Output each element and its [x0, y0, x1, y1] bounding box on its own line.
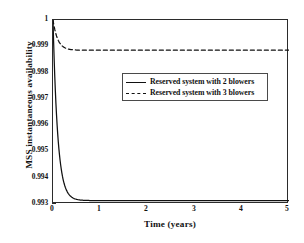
plot-area — [52, 19, 288, 203]
x-tick-label: 3 — [182, 204, 206, 213]
y-tick-label: 0.994 — [32, 173, 48, 181]
x-tick-label: 4 — [229, 204, 253, 213]
legend-item[interactable]: Reserved system with 3 blowers — [125, 87, 264, 98]
series-line-reserved-3-blowers — [53, 20, 289, 50]
y-tick-label: 0.995 — [32, 146, 48, 154]
legend-item[interactable]: Reserved system with 2 blowers — [125, 76, 264, 87]
x-axis-title: Time (years) — [52, 219, 288, 229]
legend-item-label: Reserved system with 3 blowers — [150, 88, 254, 97]
x-tick-label: 1 — [87, 204, 111, 213]
x-tick-label: 5 — [275, 204, 299, 213]
y-axis-title: MSS instantaneous availability — [24, 10, 34, 200]
legend-line-sample-dashed-icon — [125, 89, 147, 97]
curves-layer — [53, 20, 289, 204]
y-tick-label: 0.999 — [32, 41, 48, 49]
y-tick-label: 0.997 — [32, 94, 48, 102]
chart-figure: 1 0.999 0.998 0.997 0.996 0.995 0.994 0.… — [0, 0, 304, 243]
y-tick-label: 1 — [44, 15, 48, 23]
x-tick-label: 0 — [40, 204, 64, 213]
legend-item-label: Reserved system with 2 blowers — [150, 77, 254, 86]
series-line-reserved-2-blowers — [53, 20, 289, 201]
y-tick-label: 0.996 — [32, 120, 48, 128]
legend-line-sample-solid-icon — [125, 78, 147, 86]
legend[interactable]: Reserved system with 2 blowers Reserved … — [122, 73, 268, 101]
y-tick-label: 0.998 — [32, 68, 48, 76]
x-tick-label: 2 — [134, 204, 158, 213]
